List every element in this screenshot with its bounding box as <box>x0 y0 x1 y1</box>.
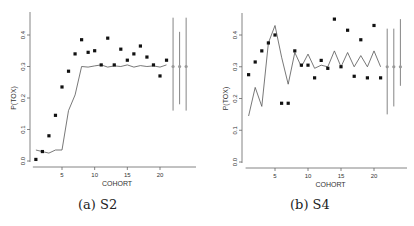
observed-point <box>280 102 283 105</box>
observed-point <box>60 85 63 88</box>
observed-point <box>100 63 103 66</box>
observed-point <box>165 59 168 62</box>
x-axis-label: COHORT <box>315 181 346 188</box>
observed-point <box>106 37 109 40</box>
observed-point <box>306 64 309 67</box>
observed-point <box>267 41 270 44</box>
observed-point <box>126 59 129 62</box>
observed-point <box>260 49 263 52</box>
observed-point <box>80 38 83 41</box>
y-tick-label: 0.0 <box>20 156 26 165</box>
chart-panel-s4: 0.00.10.20.30.4P(TOX)5101520COHORT <box>207 0 414 190</box>
observed-point <box>372 24 375 27</box>
interval-center <box>386 65 389 68</box>
y-tick-label: 0.2 <box>232 94 238 103</box>
caption-s2: (a) S2 <box>78 197 117 212</box>
x-tick-label: 20 <box>157 172 164 178</box>
x-tick-label: 10 <box>91 172 98 178</box>
x-tick-label: 15 <box>124 172 131 178</box>
x-axis-label: COHORT <box>102 180 133 187</box>
observed-point <box>41 150 44 153</box>
y-tick-label: 0.4 <box>232 30 238 39</box>
x-tick-label: 20 <box>371 173 378 179</box>
observed-point <box>34 158 37 161</box>
observed-point <box>320 59 323 62</box>
observed-point <box>359 38 362 41</box>
observed-point <box>339 65 342 68</box>
observed-point <box>379 76 382 79</box>
observed-point <box>145 55 148 58</box>
caption-s4: (b) S4 <box>290 197 330 212</box>
interval-center <box>185 65 188 68</box>
observed-point <box>313 76 316 79</box>
observed-point <box>119 48 122 51</box>
x-tick-label: 5 <box>60 172 64 178</box>
observed-point <box>254 60 257 63</box>
estimate-line <box>36 65 167 153</box>
chart-s2: 0.00.10.20.30.4P(TOX)5101520COHORT <box>0 0 207 190</box>
y-tick-label: 0.4 <box>20 30 26 39</box>
interval-center <box>392 65 395 68</box>
observed-point <box>47 134 50 137</box>
y-tick-label: 0.0 <box>232 157 238 166</box>
observed-point <box>73 52 76 55</box>
observed-point <box>67 70 70 73</box>
observed-point <box>326 67 329 70</box>
x-tick-label: 5 <box>273 173 277 179</box>
y-tick-label: 0.3 <box>232 62 238 71</box>
observed-point <box>353 75 356 78</box>
observed-point <box>87 51 90 54</box>
y-tick-label: 0.1 <box>20 125 26 134</box>
observed-point <box>273 33 276 36</box>
observed-point <box>333 18 336 21</box>
y-tick-label: 0.2 <box>20 93 26 102</box>
x-tick-label: 10 <box>305 173 312 179</box>
chart-s4: 0.00.10.20.30.4P(TOX)5101520COHORT <box>207 0 414 190</box>
observed-point <box>54 114 57 117</box>
observed-point <box>293 49 296 52</box>
y-axis-label: P(TOX) <box>10 86 18 110</box>
x-tick-label: 15 <box>338 173 345 179</box>
observed-point <box>300 64 303 67</box>
interval-center <box>178 65 181 68</box>
interval-center <box>399 65 402 68</box>
observed-point <box>113 63 116 66</box>
observed-point <box>93 49 96 52</box>
y-axis-label: P(TOX) <box>222 87 230 111</box>
observed-point <box>346 29 349 32</box>
y-tick-label: 0.3 <box>20 62 26 71</box>
observed-point <box>152 63 155 66</box>
chart-panel-s2: 0.00.10.20.30.4P(TOX)5101520COHORT <box>0 0 207 190</box>
observed-point <box>366 76 369 79</box>
observed-point <box>158 74 161 77</box>
observed-point <box>139 44 142 47</box>
interval-center <box>171 65 174 68</box>
observed-point <box>132 52 135 55</box>
y-tick-label: 0.1 <box>232 125 238 134</box>
observed-point <box>287 102 290 105</box>
observed-point <box>247 73 250 76</box>
